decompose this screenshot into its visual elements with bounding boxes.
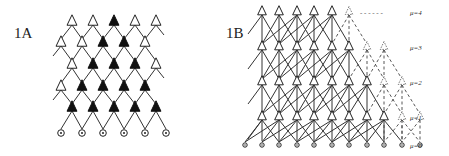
input-node-circle [79,130,86,137]
open-triangle-unit [56,80,66,90]
open-triangle-unit [275,6,284,15]
open-triangle-unit [67,15,77,25]
filled-triangle-unit [98,80,108,90]
filled-triangle-unit [130,101,140,111]
input-node-circle [121,130,128,137]
input-node-circle [330,143,334,147]
filled-triangle-unit [109,101,119,111]
open-triangle-unit [310,6,319,15]
filled-triangle-unit [119,36,129,46]
input-node-circle [365,143,369,147]
panel-1a: 1A [14,15,169,137]
panel-label-1b: 1B [226,25,244,41]
panel-1a-connections [53,25,166,129]
input-node-circle [142,130,149,137]
input-node-circle [347,143,351,147]
input-node-circle [312,143,316,147]
open-triangle-unit [328,6,337,15]
mu-level-label: μ=1 [410,114,422,122]
input-node-circle [260,143,264,147]
filled-triangle-unit [119,80,129,90]
open-triangle-unit [130,15,140,25]
mu-level-label: μ=2 [410,79,422,87]
filled-triangle-unit [151,101,161,111]
filled-triangle-unit [88,58,98,68]
open-triangle-unit [363,111,372,120]
open-triangle-unit [88,15,98,25]
panel-label-1a: 1A [14,25,33,41]
open-triangle-unit [345,76,354,85]
filled-triangle-unit [67,101,77,111]
filled-triangle-unit [88,101,98,111]
input-node-circle [382,143,386,147]
mu-level-label: μ=3 [410,44,422,52]
lattice-diagram-figure: 1A 1B μ=4μ=3μ=2μ=1μ=0- - - - - - [0,0,449,156]
open-triangle-unit [328,76,337,85]
filled-triangle-unit [98,36,108,46]
filled-triangle-unit [140,80,150,90]
open-triangle-unit [77,36,87,46]
input-node-circle [58,130,65,137]
dashed-triangle-unit [398,112,405,120]
open-triangle-unit [380,111,389,120]
input-node-circle [243,143,247,147]
open-triangle-unit [151,15,161,25]
open-triangle-unit [140,36,150,46]
mu-level-label: μ=0 [410,142,422,150]
filled-triangle-unit [77,80,87,90]
input-node-circle [277,143,281,147]
mu-level-label: μ=4 [410,9,422,17]
open-triangle-unit [345,41,354,50]
filled-triangle-unit [109,15,119,25]
open-triangle-unit [310,41,319,50]
dashed-triangle-unit [398,77,405,85]
filled-triangle-unit [109,58,119,68]
dashed-triangle-unit [345,7,352,15]
open-triangle-unit [328,41,337,50]
open-triangle-unit [67,58,77,68]
open-triangle-unit [363,76,372,85]
open-triangle-unit [258,6,267,15]
filled-triangle-unit [130,58,140,68]
open-triangle-unit [151,58,161,68]
input-node-circle [163,130,170,137]
input-node-circle [100,130,107,137]
input-node-circle [400,143,404,147]
panel-1a-units [56,15,169,137]
dashed-triangle-unit [363,42,370,50]
dashed-triangle-unit [380,77,387,85]
open-triangle-unit [56,36,66,46]
dashed-triangle-unit [380,42,387,50]
open-triangle-unit [345,111,354,120]
open-triangle-unit [293,6,302,15]
input-node-circle [295,143,299,147]
panel-1b: 1B μ=4μ=3μ=2μ=1μ=0- - - - - - [226,6,424,150]
mu4-trailing-dashes: - - - - - - [360,9,383,17]
